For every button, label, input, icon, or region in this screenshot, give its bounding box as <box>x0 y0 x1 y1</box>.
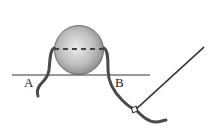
physics-diagram: A B <box>0 0 211 138</box>
label-a: A <box>24 75 34 90</box>
pulling-stick <box>134 47 204 111</box>
rope-left <box>37 48 54 96</box>
sphere <box>55 26 104 75</box>
knot-marker <box>131 106 137 112</box>
label-b: B <box>115 75 124 90</box>
pulling-stick-highlight <box>136 48 204 110</box>
